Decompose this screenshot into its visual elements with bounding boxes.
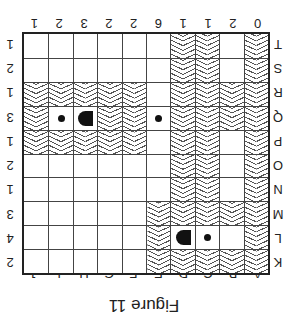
grid-cell <box>97 201 121 225</box>
row-label: N <box>270 178 286 202</box>
grid-cell <box>170 82 194 106</box>
grid-cell <box>146 225 170 249</box>
row-counts: 2 4 3 1 2 1 3 1 2 1 <box>2 32 18 275</box>
grid-cell <box>48 201 72 225</box>
grid-cell <box>73 130 97 154</box>
figure-11-rotated: Figure 11 A B C D E F G H I J K L M N O … <box>0 0 288 329</box>
grid-cell <box>170 177 194 201</box>
grid-cell <box>146 58 170 82</box>
grid-cell <box>48 34 72 58</box>
grid-cell <box>146 130 170 154</box>
grid-cell <box>24 177 48 201</box>
grid-cell <box>73 106 97 130</box>
row-count: 1 <box>2 32 18 56</box>
grid-cell <box>195 177 219 201</box>
col-count: 6 <box>146 13 171 31</box>
grid-cell <box>244 58 268 82</box>
col-count: 1 <box>22 13 47 31</box>
row-label: L <box>270 226 286 250</box>
grid-cell <box>122 177 146 201</box>
grid-cell <box>195 82 219 106</box>
grid-cell <box>146 249 170 273</box>
grid-cell <box>170 106 194 130</box>
grid-cell <box>122 34 146 58</box>
grid-cell <box>122 58 146 82</box>
grid-cell <box>195 249 219 273</box>
grid-cell <box>48 225 72 249</box>
grid-cell <box>170 201 194 225</box>
col-count: 3 <box>72 13 97 31</box>
column-counts: 0 2 1 1 6 2 2 3 2 1 <box>22 13 270 31</box>
grid-cell <box>97 225 121 249</box>
row-count: 2 <box>2 154 18 178</box>
grid-cell <box>146 177 170 201</box>
grid-cell <box>24 249 48 273</box>
grid-cell <box>73 58 97 82</box>
grid-cell <box>195 58 219 82</box>
grid-cell <box>244 177 268 201</box>
row-count: 3 <box>2 202 18 226</box>
grid-cell <box>24 82 48 106</box>
dot-marker-icon <box>58 115 65 122</box>
grid-cell <box>24 154 48 178</box>
grid-cell <box>170 58 194 82</box>
grid-cell <box>48 154 72 178</box>
grid-cell <box>170 154 194 178</box>
grid-cell <box>122 225 146 249</box>
grid-cell <box>122 201 146 225</box>
grid-cell <box>244 154 268 178</box>
col-count: 2 <box>47 13 72 31</box>
grid-cell <box>146 34 170 58</box>
grid-cell <box>146 154 170 178</box>
grid-cell <box>244 249 268 273</box>
grid-cell <box>244 34 268 58</box>
grid-cell <box>122 154 146 178</box>
row-count: 1 <box>2 81 18 105</box>
row-labels: K L M N O P Q R S T <box>270 32 286 275</box>
grid-cell <box>97 177 121 201</box>
grid-cell <box>48 106 72 130</box>
grid-cell <box>170 34 194 58</box>
row-count: 1 <box>2 129 18 153</box>
grid-cell <box>24 34 48 58</box>
row-count: 3 <box>2 105 18 129</box>
grid-cell <box>195 154 219 178</box>
col-count: 2 <box>96 13 121 31</box>
grid-cell <box>195 130 219 154</box>
row-label: Q <box>270 105 286 129</box>
grid-cell <box>122 249 146 273</box>
row-label: M <box>270 202 286 226</box>
grid-cell <box>73 225 97 249</box>
col-count: 2 <box>121 13 146 31</box>
grid-cell <box>24 58 48 82</box>
grid-cell <box>146 82 170 106</box>
grid-cell <box>219 177 243 201</box>
grid-cell <box>24 201 48 225</box>
col-count: 2 <box>220 13 245 31</box>
grid-cell <box>73 249 97 273</box>
grid-cell <box>97 249 121 273</box>
col-count: 0 <box>245 13 270 31</box>
grid-cell <box>24 225 48 249</box>
grid-cell <box>97 82 121 106</box>
grid-cell <box>73 34 97 58</box>
grid-cell <box>48 58 72 82</box>
grid-cell <box>219 249 243 273</box>
grid-cell <box>122 82 146 106</box>
grid-cell <box>244 106 268 130</box>
row-count: 4 <box>2 226 18 250</box>
row-label: P <box>270 129 286 153</box>
grid-cell <box>244 225 268 249</box>
grid-cell <box>48 177 72 201</box>
row-label: T <box>270 32 286 56</box>
row-label: S <box>270 56 286 80</box>
grid-cell <box>170 130 194 154</box>
grid-cell <box>97 106 121 130</box>
grid-cell <box>195 201 219 225</box>
grid-cell <box>48 82 72 106</box>
grid-cell <box>244 201 268 225</box>
grid-cell <box>122 130 146 154</box>
grid-cell <box>97 130 121 154</box>
grid-cell <box>24 130 48 154</box>
row-count: 1 <box>2 178 18 202</box>
